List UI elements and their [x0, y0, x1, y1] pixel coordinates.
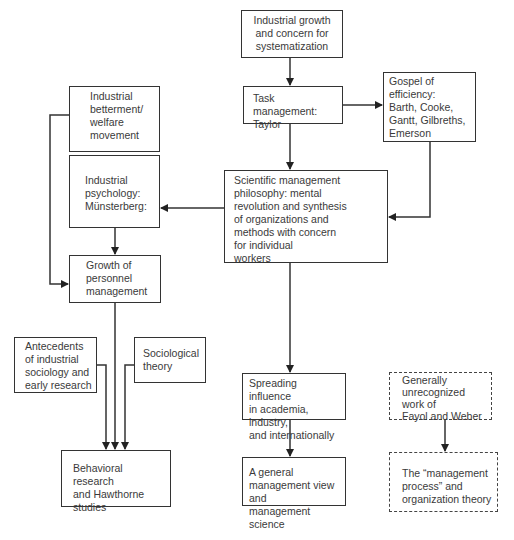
node-fayol-weber: Generally unrecognized work of Fayol and… — [389, 372, 492, 420]
node-label: Industrial betterment/ welfare movement — [90, 90, 154, 142]
node-label: Generally unrecognized work of Fayol and… — [402, 374, 487, 422]
node-label: A general management view and management… — [249, 466, 341, 531]
node-label: Gospel of efficiency: Barth, Cooke, Gant… — [389, 75, 470, 140]
node-label: Task management: Taylor — [253, 92, 336, 131]
node-industrial-betterment: Industrial betterment/ welfare movement — [69, 86, 160, 152]
edge-antecedents-to-behavioral — [97, 365, 106, 449]
node-label: Behavioral research and Hawthorne studie… — [73, 462, 166, 514]
node-gospel-of-efficiency: Gospel of efficiency: Barth, Cooke, Gant… — [383, 72, 476, 142]
node-antecedents: Antecedents of industrial sociology and … — [14, 337, 97, 393]
node-behavioral-research: Behavioral research and Hawthorne studie… — [61, 450, 171, 507]
node-label: Scientific management philosophy: mental… — [234, 174, 382, 265]
node-label: Industrial psychology: Münsterberg: — [85, 174, 154, 213]
node-label: Sociological theory — [143, 347, 201, 373]
node-management-process: The “management process” and organizatio… — [389, 452, 498, 512]
node-general-management: A general management view and management… — [242, 457, 346, 506]
node-label: Growth of personnel management — [86, 259, 155, 298]
node-label: The “management process” and organizatio… — [402, 467, 493, 506]
node-industrial-psychology: Industrial psychology: Münsterberg: — [69, 155, 160, 228]
node-spreading-influence: Spreading influence in academia, industr… — [242, 373, 346, 420]
edge-sociological-to-behavioral — [125, 365, 134, 449]
node-task-management: Task management: Taylor — [243, 86, 343, 124]
node-growth-of-personnel: Growth of personnel management — [69, 255, 161, 303]
node-label: Spreading influence in academia, industr… — [249, 377, 341, 442]
edge-gospel-to-scientific — [389, 142, 430, 217]
node-industrial-growth: Industrial growth and concern for system… — [241, 10, 343, 58]
node-scientific-management: Scientific management philosophy: mental… — [224, 170, 388, 263]
edge-betterment-to-personnel — [50, 115, 69, 284]
node-label: Industrial growth and concern for system… — [248, 14, 336, 53]
node-label: Antecedents of industrial sociology and … — [25, 340, 92, 392]
node-sociological-theory: Sociological theory — [134, 337, 206, 383]
